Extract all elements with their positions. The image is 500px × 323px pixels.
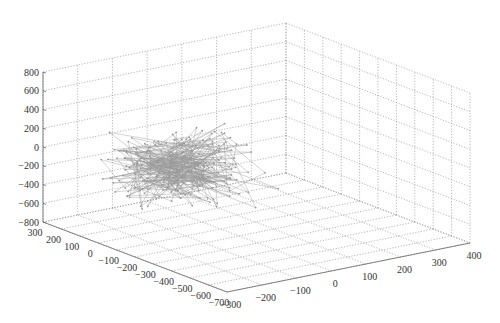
data-point-marker — [140, 157, 142, 159]
data-point-marker — [228, 166, 230, 168]
data-point-marker — [177, 166, 179, 168]
data-point-marker — [224, 132, 226, 134]
data-point-marker — [158, 195, 160, 197]
data-point-marker — [170, 180, 172, 182]
data-point-marker — [147, 188, 149, 190]
y-tick-label: 0 — [333, 278, 338, 289]
data-point-marker — [198, 184, 200, 186]
data-point-marker — [176, 176, 178, 178]
x-tick-label: 300 — [28, 227, 43, 238]
data-point-marker — [147, 164, 149, 166]
data-point-marker — [214, 131, 216, 133]
data-point-marker — [163, 173, 165, 175]
data-point-marker — [184, 161, 186, 163]
y-tick-label: −300 — [221, 299, 242, 310]
data-point-marker — [194, 168, 196, 170]
data-point-marker — [202, 185, 204, 187]
data-point-marker — [123, 149, 125, 151]
data-point-marker — [159, 169, 161, 171]
data-point-marker — [169, 176, 171, 178]
data-point-marker — [201, 170, 203, 172]
data-point-marker — [134, 173, 136, 175]
data-point-marker — [202, 165, 204, 167]
data-point-marker — [236, 179, 238, 181]
data-point-marker — [146, 150, 148, 152]
z-tick-label: −400 — [18, 179, 39, 190]
data-point-marker — [175, 153, 177, 155]
data-point-marker — [211, 181, 213, 183]
data-point-marker — [177, 180, 179, 182]
data-point-marker — [187, 156, 189, 158]
data-point-marker — [214, 153, 216, 155]
z-tick-label: 800 — [24, 67, 39, 78]
data-point-marker — [184, 176, 186, 178]
data-point-marker — [137, 163, 139, 165]
data-point-marker — [135, 148, 137, 150]
x-tick-label: 0 — [88, 248, 93, 259]
data-point-marker — [152, 164, 154, 166]
data-point-marker — [153, 179, 155, 181]
z-tick-label: −200 — [18, 160, 39, 171]
data-point-marker — [181, 139, 183, 141]
data-point-marker — [247, 171, 249, 173]
data-point-marker — [203, 178, 205, 180]
y-tick-label: −200 — [255, 292, 276, 303]
data-point-marker — [229, 187, 231, 189]
data-point-marker — [196, 127, 198, 129]
data-point-marker — [200, 162, 202, 164]
y-tick-label: −100 — [290, 285, 311, 296]
data-point-marker — [166, 187, 168, 189]
data-point-marker — [250, 151, 252, 153]
data-point-marker — [192, 185, 194, 187]
data-point-marker — [140, 152, 142, 154]
data-point-marker — [158, 172, 160, 174]
data-point-marker — [172, 163, 174, 165]
data-point-marker — [141, 208, 143, 210]
data-point-marker — [176, 168, 178, 170]
data-point-marker — [190, 194, 192, 196]
data-point-marker — [126, 152, 128, 154]
data-point-marker — [205, 162, 207, 164]
data-point-marker — [171, 161, 173, 163]
data-point-marker — [163, 179, 165, 181]
data-point-marker — [188, 169, 190, 171]
data-point-marker — [149, 147, 151, 149]
data-point-marker — [124, 169, 126, 171]
data-point-marker — [184, 194, 186, 196]
data-point-marker — [147, 178, 149, 180]
data-point-marker — [188, 167, 190, 169]
data-point-marker — [207, 197, 209, 199]
3d-line-plot: 8006004002000−200−400−600−800 3002001000… — [0, 0, 500, 323]
data-point-marker — [209, 201, 211, 203]
data-point-marker — [184, 163, 186, 165]
data-point-marker — [199, 142, 201, 144]
data-point-marker — [172, 153, 174, 155]
data-point-marker — [174, 162, 176, 164]
data-point-marker — [182, 176, 184, 178]
data-point-marker — [209, 138, 211, 140]
data-point-marker — [172, 165, 174, 167]
data-point-marker — [207, 176, 209, 178]
data-point-marker — [161, 184, 163, 186]
data-point-marker — [153, 160, 155, 162]
data-point-marker — [153, 140, 155, 142]
data-point-marker — [190, 157, 192, 159]
data-point-marker — [198, 153, 200, 155]
data-point-marker — [110, 177, 112, 179]
data-point-marker — [165, 142, 167, 144]
data-point-marker — [214, 181, 216, 183]
z-tick-label: −600 — [18, 198, 39, 209]
data-point-marker — [235, 166, 237, 168]
data-point-marker — [175, 131, 177, 133]
data-point-marker — [139, 190, 141, 192]
data-point-marker — [171, 200, 173, 202]
data-point-marker — [178, 173, 180, 175]
data-point-marker — [137, 161, 139, 163]
data-point-marker — [201, 130, 203, 132]
data-point-marker — [230, 137, 232, 139]
data-point-marker — [247, 192, 249, 194]
data-point-marker — [167, 156, 169, 158]
data-point-marker — [212, 187, 214, 189]
data-point-marker — [124, 157, 126, 159]
data-point-marker — [162, 189, 164, 191]
